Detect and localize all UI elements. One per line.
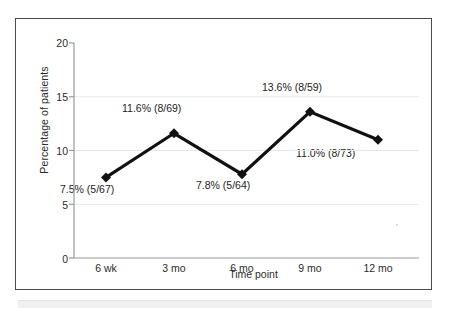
series-line bbox=[106, 112, 378, 178]
grid-lines bbox=[74, 97, 419, 205]
scan-speck bbox=[396, 224, 398, 226]
y-axis-ticks bbox=[69, 43, 74, 258]
figure-frame: Percentage of patients Time point 0 5 10… bbox=[15, 18, 432, 290]
caption-band bbox=[18, 300, 432, 308]
chart-plot-area: Percentage of patients Time point 0 5 10… bbox=[16, 19, 433, 291]
marker-12mo bbox=[373, 135, 383, 145]
line-chart-canvas bbox=[16, 19, 433, 291]
series-markers bbox=[101, 107, 383, 183]
